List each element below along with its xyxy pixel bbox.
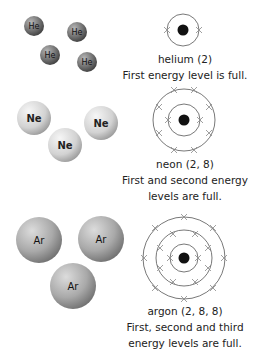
argon-atom: Ar xyxy=(50,263,96,309)
argon-atom: Ar xyxy=(78,216,124,262)
helium-atom: He xyxy=(67,22,87,42)
argon-shell-diagram xyxy=(141,214,227,302)
svg-text:Ar: Ar xyxy=(34,235,46,246)
argon-atoms: Ar Ar Ar xyxy=(16,216,124,309)
helium-description: First energy level is full. xyxy=(120,67,250,83)
neon-shell-diagram xyxy=(153,87,215,153)
argon-atom: Ar xyxy=(16,217,62,263)
neon-description-line-1: First and second energy xyxy=(120,172,250,188)
neon-atom: Ne xyxy=(48,128,82,162)
svg-text:He: He xyxy=(82,58,93,67)
helium-caption: helium (2) First energy level is full. xyxy=(120,51,250,83)
nucleus-icon xyxy=(179,115,190,126)
svg-text:Ne: Ne xyxy=(57,140,72,151)
neon-name-label: neon (2, 8) xyxy=(120,156,250,172)
neon-caption: neon (2, 8) First and second energy leve… xyxy=(120,156,250,204)
neon-description-line-2: levels are full. xyxy=(120,188,250,204)
argon-name-label: argon (2, 8, 8) xyxy=(120,303,250,319)
helium-atom: He xyxy=(24,16,44,36)
neon-atom: Ne xyxy=(84,106,118,140)
helium-atoms: He He He He xyxy=(24,16,97,72)
svg-text:He: He xyxy=(72,28,83,37)
helium-name-label: helium (2) xyxy=(120,51,250,67)
helium-atom: He xyxy=(40,45,60,65)
svg-text:Ne: Ne xyxy=(26,113,41,124)
svg-text:He: He xyxy=(45,51,56,60)
neon-atoms: Ne Ne Ne xyxy=(17,101,118,162)
svg-text:He: He xyxy=(29,22,40,31)
argon-description-line-2: energy levels are full. xyxy=(120,335,250,351)
argon-caption: argon (2, 8, 8) First, second and third … xyxy=(120,303,250,351)
argon-description-line-1: First, second and third xyxy=(120,319,250,335)
svg-text:Ar: Ar xyxy=(96,234,108,245)
helium-atom: He xyxy=(77,52,97,72)
nucleus-icon xyxy=(178,25,189,36)
svg-text:Ar: Ar xyxy=(68,281,80,292)
helium-shell-diagram xyxy=(164,14,202,46)
svg-text:Ne: Ne xyxy=(93,118,108,129)
neon-atom: Ne xyxy=(17,101,51,135)
nucleus-icon xyxy=(179,253,190,264)
